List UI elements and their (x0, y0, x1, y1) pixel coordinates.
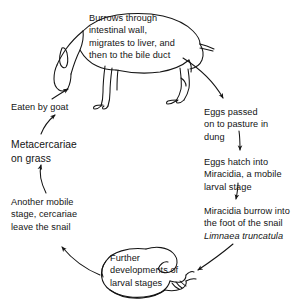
arrow-snail-to-another-mobile (62, 247, 100, 275)
label-eaten-by-goat: Eaten by goat (11, 101, 101, 113)
label-snail-species-name: Limnaea truncatula (204, 231, 283, 241)
arrow-miracidia-to-snail (198, 244, 233, 270)
arrow-eaten-to-goat (52, 89, 68, 99)
label-eggs-hatch-into-miracidia: Eggs hatch into Miracidia, a mobile larv… (204, 156, 306, 193)
life-cycle-diagram: Burrows through intestinal wall, migrate… (0, 0, 308, 304)
label-metacercariae-on-grass: Metacercariae on grass (11, 138, 111, 165)
label-miracidia-line-1: Miracidia burrow into (204, 206, 290, 216)
label-miracidia-burrow-into-snail-foot: Miracidia burrow intothe foot of the sna… (204, 205, 308, 242)
label-miracidia-line-2: the foot of the snail (204, 218, 283, 228)
label-another-mobile-stage-cercariae: Another mobile stage, cercariae leave th… (11, 196, 109, 233)
arrow-another-mobile-to-metacercariae (40, 165, 46, 193)
arrow-goat-to-eggs-passed (183, 58, 223, 98)
arrow-metacercariae-to-eaten (41, 115, 55, 134)
label-further-developments-of-larval-stages: Further developments of larval stages (110, 252, 200, 289)
label-burrows-through-intestinal-wall: Burrows through intestinal wall, migrate… (89, 12, 187, 62)
label-eggs-passed-on-to-pasture: Eggs passed on to pasture in dung (204, 106, 304, 143)
